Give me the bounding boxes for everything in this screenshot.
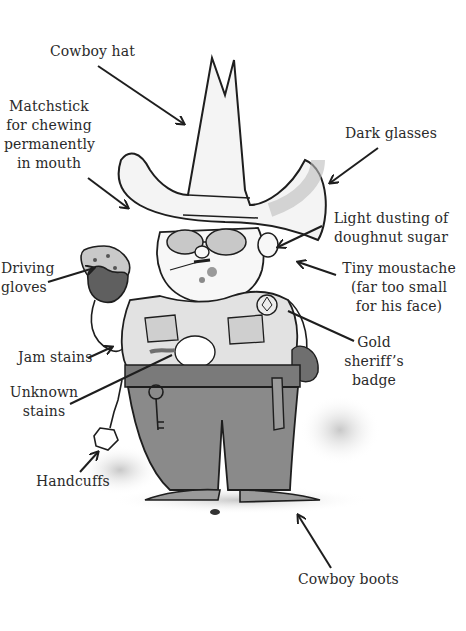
label-dark-glasses: Dark glasses bbox=[345, 124, 437, 143]
arrow-cowboy-hat bbox=[98, 66, 184, 124]
label-matchstick: Matchstick for chewing permanently in mo… bbox=[4, 97, 94, 173]
label-doughnut-sugar: Light dusting of doughnut sugar bbox=[326, 209, 456, 247]
label-cowboy-boots: Cowboy boots bbox=[298, 570, 399, 589]
label-jam-stains: Jam stains bbox=[18, 348, 93, 367]
label-cowboy-hat: Cowboy hat bbox=[50, 42, 135, 61]
label-tiny-moustache: Tiny moustache (far too small for his fa… bbox=[336, 259, 462, 316]
arrow-dark-glasses bbox=[330, 148, 378, 183]
arrow-tiny-moustache bbox=[298, 262, 336, 275]
arrow-cowboy-boots bbox=[298, 515, 331, 568]
label-unknown-stains: Unknown stains bbox=[8, 383, 80, 421]
label-gold-badge: Gold sheriff’s badge bbox=[322, 333, 426, 390]
cowboy-hat-shape bbox=[119, 58, 326, 240]
label-driving-gloves: Driving gloves bbox=[1, 259, 54, 297]
labeled-diagram: Cowboy hat Matchstick for chewing perman… bbox=[0, 0, 466, 631]
label-handcuffs: Handcuffs bbox=[36, 472, 110, 491]
